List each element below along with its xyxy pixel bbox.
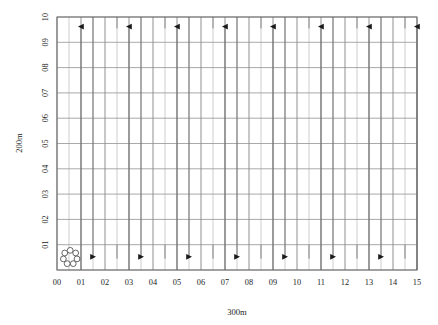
x-axis-title: 300m	[227, 307, 247, 317]
x-axis-tick-label: 13	[365, 278, 373, 287]
y-axis-tick-label: 03	[41, 190, 50, 198]
y-axis-tick-label: 10	[41, 13, 50, 21]
y-axis-tick-label: 05	[41, 139, 50, 147]
y-axis-title: 200m	[14, 133, 24, 153]
y-axis-tick-label: 01	[41, 241, 50, 249]
y-axis-tick-label: 07	[41, 89, 50, 97]
node-circle-icon	[60, 256, 66, 262]
y-axis-tick-label: 04	[41, 164, 50, 173]
x-axis-tick-label: 10	[293, 278, 301, 287]
x-axis-tick-label: 08	[245, 278, 253, 287]
x-axis-tick-label: 05	[173, 278, 181, 287]
x-axis-tick-label: 01	[77, 278, 85, 287]
grid-plan-figure: 00010203040506070809101112131415 0102030…	[0, 0, 438, 325]
node-circle-icon	[67, 247, 73, 253]
x-axis-tick-label: 03	[125, 278, 133, 287]
x-axis-tick-label: 04	[149, 278, 158, 287]
y-axis-tick-label: 02	[41, 215, 50, 223]
y-axis-tick-label: 08	[41, 63, 50, 71]
node-circle-icon	[70, 261, 76, 267]
x-axis-tick-label: 09	[269, 278, 277, 287]
y-axis-tick-label: 06	[41, 114, 50, 122]
figure-background	[0, 0, 438, 325]
x-axis-tick-label: 11	[317, 278, 325, 287]
node-circle-icon	[62, 250, 68, 256]
node-circle-icon	[73, 250, 79, 256]
x-axis-tick-label: 06	[197, 278, 205, 287]
x-axis-tick-label: 12	[341, 278, 349, 287]
x-axis-tick-label: 15	[413, 278, 421, 287]
grid-plan-svg: 00010203040506070809101112131415 0102030…	[0, 0, 438, 325]
y-axis-tick-label: 09	[41, 38, 50, 46]
x-axis-tick-label: 14	[389, 278, 398, 287]
x-axis-tick-label: 00	[53, 278, 61, 287]
x-axis-tick-label: 02	[101, 278, 109, 287]
x-axis-tick-label: 07	[221, 278, 229, 287]
